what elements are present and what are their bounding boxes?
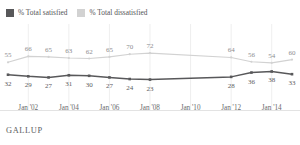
- data-point: [7, 73, 10, 76]
- data-point: [230, 56, 232, 58]
- data-point: [250, 61, 252, 63]
- chart-plot-area: [0, 22, 300, 114]
- x-axis-tick-2010: Jan '10: [181, 104, 201, 113]
- x-axis-tick-2008: Jan '08: [140, 104, 160, 113]
- data-point: [88, 75, 91, 78]
- data-point: [88, 57, 90, 59]
- data-point: [291, 73, 294, 76]
- value-label-satisfied-2015: 33: [289, 79, 296, 87]
- value-label-dissatisfied-2008: 72: [147, 42, 154, 50]
- value-label-dissatisfied-2001: 55: [5, 51, 12, 59]
- value-label-satisfied-2012: 28: [228, 82, 235, 90]
- value-label-dissatisfied-2003: 65: [45, 46, 52, 54]
- value-label-satisfied-2008: 23: [147, 85, 154, 93]
- value-label-satisfied-2004: 31: [65, 80, 72, 88]
- data-point: [291, 59, 293, 61]
- value-label-dissatisfied-2005: 62: [86, 48, 93, 56]
- value-label-dissatisfied-2013: 56: [248, 51, 255, 59]
- data-point: [47, 76, 50, 79]
- value-label-satisfied-2003: 27: [45, 82, 52, 90]
- chart-container: % Total satisfied % Total dissatisfied J…: [0, 0, 300, 145]
- x-axis: Jan '02Jan '04Jan '06Jan '08Jan '10Jan '…: [0, 104, 300, 118]
- data-point: [7, 61, 9, 63]
- value-label-dissatisfied-2006: 65: [106, 46, 113, 54]
- data-point: [68, 74, 71, 77]
- data-point: [149, 78, 152, 81]
- value-label-satisfied-2002: 29: [25, 81, 32, 89]
- legend-swatch-satisfied: [6, 9, 14, 17]
- x-axis-tick-2012: Jan '12: [221, 104, 241, 113]
- data-point: [108, 76, 111, 79]
- data-point: [108, 56, 110, 58]
- value-label-dissatisfied-2002: 66: [25, 45, 32, 53]
- x-axis-tick-2006: Jan '06: [99, 104, 119, 113]
- x-axis-tick-2002: Jan '02: [18, 104, 38, 113]
- value-label-satisfied-2001: 32: [5, 80, 12, 88]
- gallup-brand: GALLUP: [6, 126, 43, 135]
- legend-swatch-dissatisfied: [77, 9, 85, 17]
- value-label-dissatisfied-2012: 64: [228, 46, 235, 54]
- value-label-satisfied-2014: 38: [268, 76, 275, 84]
- value-label-dissatisfied-2004: 63: [65, 47, 72, 55]
- chart-legend: % Total satisfied % Total dissatisfied: [6, 6, 148, 20]
- legend-label-satisfied: % Total satisfied: [18, 9, 67, 17]
- value-label-satisfied-2005: 30: [86, 81, 93, 89]
- value-label-satisfied-2007: 24: [126, 84, 133, 92]
- legend-item-dissatisfied: % Total dissatisfied: [77, 9, 147, 17]
- data-point: [230, 76, 233, 79]
- legend-label-dissatisfied: % Total dissatisfied: [89, 9, 147, 17]
- legend-item-satisfied: % Total satisfied: [6, 9, 67, 17]
- data-point: [250, 71, 253, 74]
- data-point: [128, 78, 131, 81]
- x-axis-tick-2004: Jan '04: [59, 104, 79, 113]
- data-point: [27, 75, 30, 78]
- data-point: [271, 62, 273, 64]
- data-point: [270, 70, 273, 73]
- value-label-dissatisfied-2014: 54: [268, 52, 275, 60]
- data-point: [149, 52, 151, 54]
- data-point: [68, 57, 70, 59]
- value-label-satisfied-2006: 27: [106, 82, 113, 90]
- value-label-satisfied-2013: 36: [248, 78, 255, 86]
- value-label-dissatisfied-2007: 70: [126, 43, 133, 51]
- data-point: [27, 55, 29, 57]
- value-label-dissatisfied-2015: 60: [289, 49, 296, 57]
- x-axis-tick-2014: Jan '14: [262, 104, 282, 113]
- chart-svg: [0, 22, 300, 114]
- data-point: [129, 53, 131, 55]
- data-point: [47, 56, 49, 58]
